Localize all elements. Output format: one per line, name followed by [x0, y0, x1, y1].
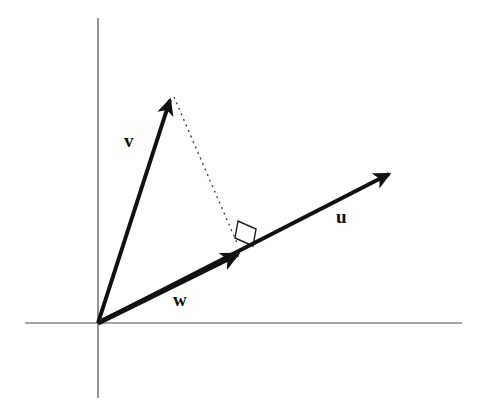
vector-projection-figure: v u w — [0, 0, 484, 416]
coordinate-axes — [25, 18, 462, 398]
vector-label-u: u — [336, 207, 347, 226]
vector-label-v: v — [124, 131, 134, 150]
figure-canvas — [0, 0, 484, 416]
vector-label-w: w — [173, 290, 187, 309]
dashed-projection-line — [174, 97, 237, 243]
